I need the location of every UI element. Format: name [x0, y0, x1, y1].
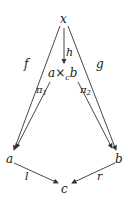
label-g: g [96, 57, 104, 71]
label-pi1: π1 [35, 84, 47, 97]
commutative-diagram: x a×cb a b c f g h π1 π2 l r [0, 0, 128, 200]
arrow-g [68, 26, 116, 150]
node-c: c [61, 182, 68, 196]
node-b: b [115, 152, 123, 166]
node-x: x [60, 12, 67, 26]
node-a: a [6, 152, 13, 166]
label-f: f [23, 57, 31, 71]
label-r: r [97, 170, 103, 183]
label-pi2: π2 [79, 84, 92, 97]
label-h: h [66, 46, 73, 59]
node-pullback: a×cb [48, 66, 77, 82]
label-l: l [25, 170, 29, 183]
arrow-l [14, 163, 58, 183]
arrow-r [72, 163, 115, 183]
